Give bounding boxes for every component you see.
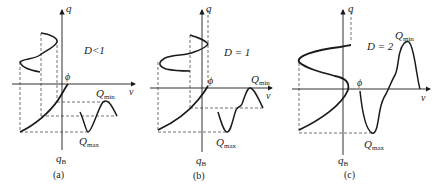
input-waveform [160, 35, 208, 71]
q-max-label: Qmax [79, 136, 99, 149]
q-base-label: qB [196, 155, 206, 168]
phi-label: ϕ [357, 78, 362, 88]
output-waveform [360, 41, 420, 133]
characteristic-curve [20, 84, 68, 132]
q-max-label: Qmax [216, 137, 236, 150]
dashed-guides [158, 10, 263, 132]
phi-label: ϕ [65, 72, 70, 82]
q-max-label: Qmax [364, 139, 384, 152]
q-axis-label: q [66, 3, 72, 14]
output-waveform [218, 88, 263, 132]
q-axis-label: q [206, 3, 212, 14]
dashed-guides [299, 12, 373, 133]
q-min-label: Qmin [395, 30, 414, 43]
q-axis-label: q [348, 3, 354, 14]
q-base-label: qB [56, 153, 66, 166]
v-axis-label: v [129, 87, 133, 97]
caption-a: (a) [53, 170, 64, 180]
v-axis-label: v [421, 93, 425, 103]
condition-label: D = 2 [367, 41, 393, 52]
condition-label: D<1 [84, 45, 105, 56]
q-base-label: qB [338, 155, 348, 168]
caption-c: (c) [344, 170, 355, 180]
panel-a [12, 10, 135, 150]
phi-label: ϕ [208, 76, 213, 86]
v-axis-label: v [266, 91, 270, 101]
q-min-label: Qmin [251, 74, 270, 87]
condition-label: D = 1 [224, 47, 250, 58]
input-waveform [20, 33, 57, 72]
caption-b: (b) [193, 171, 205, 181]
output-waveform [80, 101, 117, 132]
q-min-label: Qmin [96, 88, 115, 101]
